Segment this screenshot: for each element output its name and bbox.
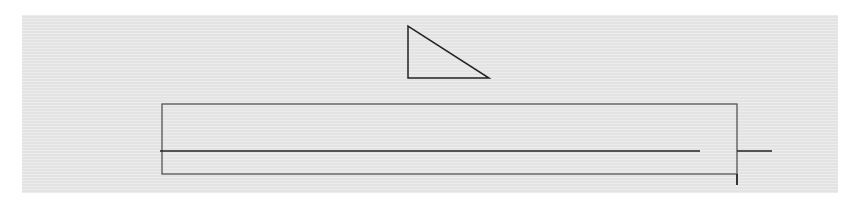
outer-rectangle	[162, 104, 737, 174]
right-triangle	[408, 26, 489, 78]
diagram-canvas	[0, 0, 853, 202]
